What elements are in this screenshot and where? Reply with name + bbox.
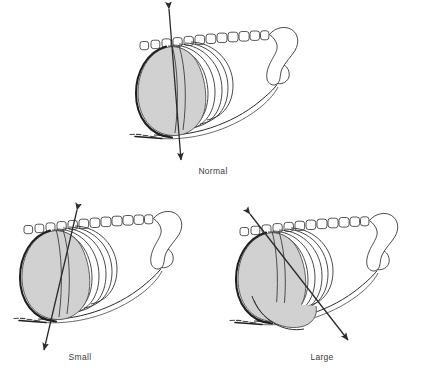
figure-canvas: Normal Small Large [0, 0, 432, 383]
panel-caption-normal: Normal [198, 166, 227, 176]
panel-caption-small: Small [69, 352, 92, 362]
panel-caption-large: Large [310, 352, 333, 362]
page-background [0, 0, 432, 383]
anatomy-figure: Normal Small Large [0, 0, 432, 383]
